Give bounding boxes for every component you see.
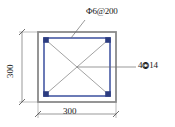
rebar-grade-symbol-icon: ⭗ [142, 62, 149, 71]
rebar-top-right [105, 37, 111, 43]
longitudinal-rebar-label: 4⭗14 [138, 61, 158, 70]
dimension-left-text: 300 [6, 65, 15, 79]
rebar-size: 14 [149, 60, 158, 70]
stirrup-label: Φ6@200 [86, 7, 118, 16]
dimension-bottom-label: 300 [63, 107, 77, 116]
drawing-canvas: Φ6@200 4⭗14 300 300 [0, 0, 175, 127]
dimension-left-label: 300 [6, 39, 15, 53]
rebar-bottom-right [105, 91, 111, 97]
rebar-bottom-left [43, 91, 49, 97]
rebar-top-left [43, 37, 49, 43]
